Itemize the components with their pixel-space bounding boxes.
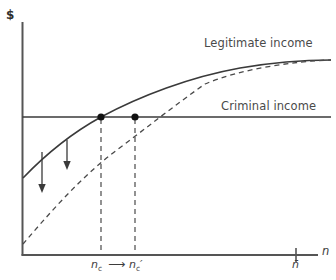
down-arrow-icon-2 [63, 140, 70, 170]
intersection-marker-original [97, 113, 104, 120]
y-axis-label: $ [6, 9, 14, 21]
drop-lines-group [101, 119, 135, 254]
figure-container: Legitimate income Criminal income $ n n̄… [0, 0, 336, 280]
x-axis-label: n [322, 246, 329, 258]
legitimate-income-label: Legitimate income [204, 38, 313, 50]
ncp-base: n [129, 258, 136, 271]
x-tick-label-nc-prime: nc′ [129, 259, 143, 270]
criminal-income-label: Criminal income [221, 101, 316, 113]
nc-base: n [91, 258, 98, 271]
intersection-marker-shifted [131, 113, 138, 120]
legitimate-income-curve-dashed [23, 60, 331, 244]
x-tick-label-nc: nc [91, 259, 102, 270]
nc-subscript: c [98, 264, 102, 273]
x-tick-label-nbar: n̄ [292, 259, 299, 270]
ncp-prime-mark: ′ [140, 258, 143, 271]
legitimate-income-curve-solid [23, 60, 331, 178]
shift-arrow-label: ⟶ [108, 258, 125, 270]
